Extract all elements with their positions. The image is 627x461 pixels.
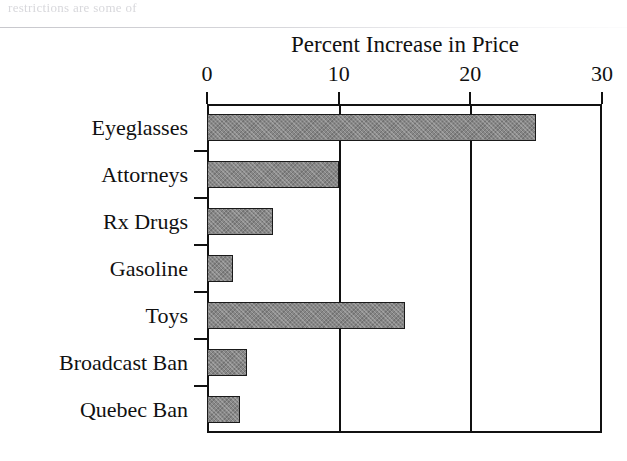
x-tick-mark-30 xyxy=(601,92,603,104)
x-tick-label-0: 0 xyxy=(202,62,213,86)
bar-row xyxy=(207,396,602,423)
y-label-attorneys: Attorneys xyxy=(101,163,188,187)
bar-row xyxy=(207,161,602,188)
y-label-broadcast-ban: Broadcast Ban xyxy=(59,351,188,375)
x-tick-label-30: 30 xyxy=(591,62,613,86)
y-label-toys: Toys xyxy=(146,304,188,328)
bar-row xyxy=(207,302,602,329)
x-axis-tick-labels: 0102030 xyxy=(0,62,627,88)
chart-title: Percent Increase in Price xyxy=(207,32,603,58)
bar-row xyxy=(207,255,602,282)
bar-row xyxy=(207,349,602,376)
y-label-gasoline: Gasoline xyxy=(110,257,188,281)
bar-toys xyxy=(207,302,405,329)
bar-row xyxy=(207,114,602,141)
y-label-rx-drugs: Rx Drugs xyxy=(103,210,188,234)
bars-layer xyxy=(207,104,602,433)
x-tick-label-10: 10 xyxy=(328,62,350,86)
x-tick-label-20: 20 xyxy=(459,62,481,86)
bar-quebec-ban xyxy=(207,396,240,423)
y-label-quebec-ban: Quebec Ban xyxy=(80,398,188,422)
bar-gasoline xyxy=(207,255,233,282)
bar-broadcast-ban xyxy=(207,349,247,376)
y-axis-category-labels: EyeglassesAttorneysRx DrugsGasolineToysB… xyxy=(0,104,196,433)
x-tick-mark-0 xyxy=(206,92,208,104)
bar-chart-figure: Percent Increase in Price 0102030 Eyegla… xyxy=(0,0,627,461)
bar-row xyxy=(207,208,602,235)
bar-rx-drugs xyxy=(207,208,273,235)
x-tick-mark-10 xyxy=(338,92,340,104)
x-tick-mark-20 xyxy=(469,92,471,104)
bar-attorneys xyxy=(207,161,339,188)
y-label-eyeglasses: Eyeglasses xyxy=(91,116,188,140)
bar-eyeglasses xyxy=(207,114,536,141)
